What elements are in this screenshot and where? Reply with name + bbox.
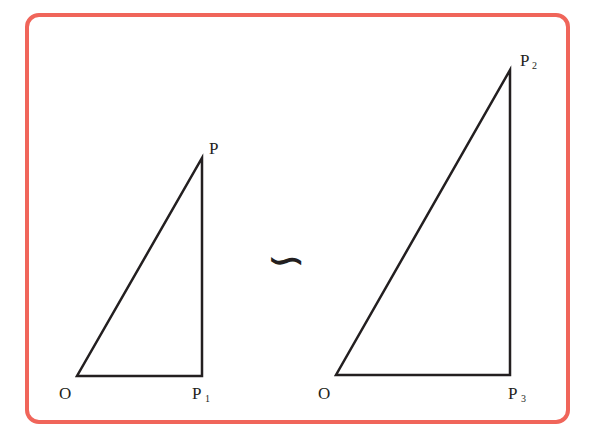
left-vertex-p1-letter: P xyxy=(192,384,201,403)
right-vertex-o-label: O xyxy=(318,384,330,403)
right-triangle-shape xyxy=(336,70,510,375)
right-vertex-p2-label: P 2 xyxy=(520,51,537,71)
right-vertex-p3-label: P 3 xyxy=(508,384,526,404)
right-triangle: O P 3 P 2 xyxy=(318,51,537,404)
left-vertex-p1-label: P 1 xyxy=(192,384,210,404)
left-vertex-p1-subscript: 1 xyxy=(205,393,210,404)
right-vertex-p2-letter: P xyxy=(520,51,529,70)
left-triangle: O P 1 P xyxy=(59,139,218,404)
left-vertex-p-label: P xyxy=(209,139,218,158)
similar-triangles-diagram: O P 1 P ∽ O P 3 P 2 xyxy=(0,0,594,426)
right-vertex-p3-subscript: 3 xyxy=(521,393,526,404)
similarity-symbol: ∽ xyxy=(266,231,306,287)
right-vertex-p3-letter: P xyxy=(508,384,517,403)
right-vertex-p2-subscript: 2 xyxy=(532,60,537,71)
left-vertex-o-label: O xyxy=(59,384,71,403)
left-triangle-shape xyxy=(77,158,202,376)
